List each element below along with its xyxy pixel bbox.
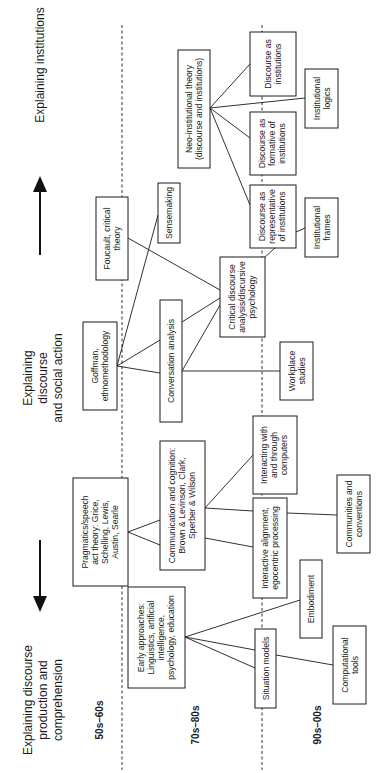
label-pragmatics: Pragmatics/speech act theory: Grice, Sch… (80, 495, 120, 568)
svg-text:Schelling, Lewis,: Schelling, Lewis, (100, 500, 110, 564)
era-label-50s-60s: 50s–60s (94, 700, 105, 739)
svg-text:representative: representative (267, 189, 277, 244)
svg-text:Austin, Searle: Austin, Searle (110, 505, 120, 559)
label-embodiment: Embodiment (306, 574, 316, 623)
svg-text:Early approaches:: Early approaches: (136, 603, 146, 672)
svg-text:institutions: institutions (277, 123, 287, 164)
label-discourse-representative: Discourse as representative of instituti… (257, 189, 287, 244)
svg-text:psychology, education: psychology, education (166, 595, 176, 680)
svg-text:Explaining discourse: Explaining discourse (21, 645, 35, 755)
svg-text:Sensemaking: Sensemaking (164, 187, 174, 239)
label-situation-models: Situation models (261, 637, 271, 701)
svg-text:studies: studies (297, 357, 307, 384)
svg-text:discourse: discourse (36, 352, 50, 404)
svg-text:Embodiment: Embodiment (306, 574, 316, 623)
svg-text:Institutional: Institutional (312, 206, 322, 250)
era-label-70s-80s: 70s–80s (190, 705, 201, 744)
svg-text:Institutional: Institutional (312, 77, 322, 121)
label-discourse-formative: Discourse as formative of institutions (257, 119, 287, 169)
svg-text:theory: theory (112, 226, 122, 251)
svg-text:production and: production and (36, 660, 50, 739)
svg-text:and social action: and social action (51, 333, 65, 422)
svg-text:logics: logics (322, 88, 332, 110)
arrow-left-icon (33, 540, 47, 612)
svg-text:tools: tools (350, 656, 360, 674)
svg-text:and through: and through (269, 432, 279, 478)
label-sensemaking: Sensemaking (164, 187, 174, 239)
discourse-theory-diagram: Explaining discourse production and comp… (0, 0, 383, 773)
label-interactive-alignment: Interactive alignment, egocentric proces… (260, 506, 280, 590)
svg-text:analysis/discursive: analysis/discursive (237, 261, 247, 333)
svg-text:Conversation analysis: Conversation analysis (166, 319, 176, 403)
svg-text:Computational: Computational (340, 637, 350, 693)
label-neo-institutional: Neo-institutional theory (discourse and … (184, 58, 204, 160)
svg-text:egocentric processing: egocentric processing (270, 506, 280, 590)
svg-text:50s–60s: 50s–60s (94, 700, 105, 739)
svg-text:Brown & Levinson, Clark,: Brown & Levinson, Clark, (177, 457, 187, 553)
svg-text:Neo-institutional theory: Neo-institutional theory (184, 64, 194, 153)
svg-text:Foucault, critical: Foucault, critical (102, 207, 112, 269)
svg-text:Discourse as: Discourse as (257, 192, 267, 242)
svg-text:Interacting with: Interacting with (259, 426, 269, 484)
svg-text:formative of: formative of (267, 120, 277, 166)
svg-text:Communication and cognition:: Communication and cognition: (167, 448, 177, 564)
svg-text:Workplace: Workplace (287, 351, 297, 392)
svg-text:frames: frames (322, 214, 332, 240)
label-conversation-analysis: Conversation analysis (166, 319, 176, 403)
svg-text:Situation models: Situation models (261, 637, 271, 701)
svg-text:computers: computers (279, 435, 289, 475)
header-social-action: Explaining discourse and social action (21, 333, 65, 422)
svg-text:Discourse as: Discourse as (263, 39, 273, 89)
header-institutions: Explaining institutions (33, 7, 47, 122)
svg-text:70s–80s: 70s–80s (190, 705, 201, 744)
svg-text:ethnomethodology: ethnomethodology (100, 330, 110, 401)
arrow-right-icon (33, 176, 47, 255)
svg-text:intelligence,: intelligence, (156, 615, 166, 660)
label-discourse-as-institutions: Discourse as institutions (263, 39, 283, 89)
svg-text:(discourse and institutions): (discourse and institutions) (194, 58, 204, 160)
svg-text:Linguistics, artificial: Linguistics, artificial (146, 600, 156, 674)
svg-text:institutions: institutions (273, 44, 283, 85)
svg-text:Communities and: Communities and (344, 480, 354, 547)
svg-text:Interactive alignment,: Interactive alignment, (260, 507, 270, 589)
svg-text:of institutions: of institutions (277, 191, 287, 241)
svg-text:Pragmatics/speech: Pragmatics/speech (80, 495, 90, 568)
svg-text:psychology: psychology (247, 275, 257, 319)
svg-text:Discourse as: Discourse as (257, 119, 267, 169)
era-label-90s-00s: 90s–00s (312, 705, 323, 744)
svg-text:conventions: conventions (354, 491, 364, 537)
svg-text:act theory: Grice,: act theory: Grice, (90, 499, 100, 564)
svg-text:Explaining institutions: Explaining institutions (33, 7, 47, 122)
svg-text:Explaining: Explaining (21, 350, 35, 405)
svg-text:90s–00s: 90s–00s (312, 705, 323, 744)
svg-text:comprehension: comprehension (51, 659, 65, 741)
svg-text:Goffman,: Goffman, (90, 348, 100, 383)
header-production: Explaining discourse production and comp… (21, 645, 65, 755)
svg-text:Sperber & Wilson: Sperber & Wilson (187, 472, 197, 539)
svg-text:Critical discourse: Critical discourse (227, 264, 237, 330)
